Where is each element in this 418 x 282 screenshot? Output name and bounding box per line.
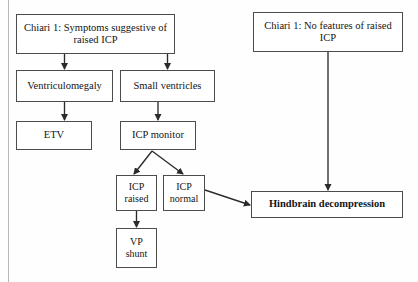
node-no-features-raised-icp: Chiari 1: No features of raised ICP: [253, 12, 403, 52]
node-hindbrain-decompression-label: Hindbrain decompression: [267, 198, 387, 210]
node-hindbrain-decompression: Hindbrain decompression: [251, 191, 403, 218]
node-small-ventricles: Small ventricles: [120, 70, 215, 102]
node-no-features-raised-icp-label: Chiari 1: No features of raised ICP: [254, 20, 402, 45]
node-icp-normal-label: ICP normal: [164, 181, 204, 205]
node-icp-raised-label: ICP raised: [117, 181, 156, 205]
node-icp-raised: ICP raised: [116, 175, 157, 211]
node-small-ventricles-label: Small ventricles: [132, 80, 204, 92]
node-symptoms-raised-icp-label: Chiari 1: Symptoms suggestive of raised …: [17, 22, 174, 47]
node-etv-label: ETV: [42, 129, 66, 141]
node-icp-normal: ICP normal: [163, 175, 205, 211]
node-ventriculomegaly-label: Ventriculomegaly: [25, 80, 104, 92]
node-ventriculomegaly: Ventriculomegaly: [16, 70, 113, 102]
edge-icp-monitor-to-icp-raised: [134, 151, 152, 174]
node-symptoms-raised-icp: Chiari 1: Symptoms suggestive of raised …: [16, 14, 175, 54]
figure-canvas: Chiari 1: Symptoms suggestive of raised …: [0, 0, 418, 282]
node-etv: ETV: [16, 121, 92, 150]
node-icp-monitor: ICP monitor: [120, 121, 196, 150]
node-icp-monitor-label: ICP monitor: [130, 129, 186, 141]
node-vp-shunt: VP shunt: [116, 228, 157, 268]
node-vp-shunt-label: VP shunt: [117, 236, 156, 260]
edge-icp-normal-to-hindbrain: [205, 190, 250, 205]
edge-icp-monitor-to-icp-normal: [152, 151, 183, 174]
